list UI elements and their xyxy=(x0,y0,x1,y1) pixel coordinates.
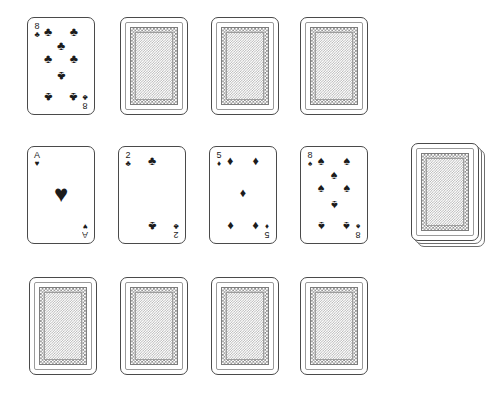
club-icon: ♣ xyxy=(68,54,79,65)
card-table: 8 ♣ 8 ♣ ♣ ♣ ♣ ♣ ♣ ♣ ♣ ♣ xyxy=(0,0,497,398)
diamond-icon: ♦ xyxy=(250,156,261,167)
card-5-of-diamonds[interactable]: 5 ♦ 5 ♦ ♦ ♦ ♦ ♦ ♦ xyxy=(209,146,277,244)
pip-layout: ♣ ♣ ♣ ♣ ♣ ♣ ♣ ♣ xyxy=(41,26,81,106)
card-2-of-clubs[interactable]: 2 ♣ 2 ♣ ♣ ♣ xyxy=(118,146,186,244)
club-icon: ♣ xyxy=(43,91,54,102)
card-back-pattern xyxy=(310,287,358,365)
card-back-border xyxy=(216,22,274,110)
card-back-border xyxy=(125,282,183,370)
pip-layout: ♣ ♣ xyxy=(132,155,172,235)
card-back-pattern xyxy=(130,287,178,365)
corner-index-top-left: A ♥ xyxy=(31,151,43,168)
stock-pile[interactable] xyxy=(411,143,485,247)
card-back-border xyxy=(216,282,274,370)
club-icon: ♣ xyxy=(147,156,158,167)
card-back[interactable] xyxy=(120,17,188,115)
card-back-pattern xyxy=(130,27,178,105)
club-icon: ♣ xyxy=(43,27,54,38)
club-icon: ♣ xyxy=(68,91,79,102)
card-ace-of-hearts[interactable]: A ♥ A ♥ ♥ xyxy=(27,146,95,244)
card-back-border xyxy=(125,22,183,110)
card-back-pattern xyxy=(421,153,469,231)
spade-icon: ♠ xyxy=(316,183,327,194)
card-back-border xyxy=(34,282,92,370)
spade-icon: ♠ xyxy=(341,183,352,194)
club-icon: ♣ xyxy=(43,54,54,65)
stock-pile-top-card[interactable] xyxy=(411,143,479,241)
diamond-icon: ♦ xyxy=(225,156,236,167)
card-back-pattern xyxy=(39,287,87,365)
spade-icon: ♠ xyxy=(329,199,340,210)
spade-icon: ♠ xyxy=(316,220,327,231)
card-back-border xyxy=(305,282,363,370)
diamond-icon: ♦ xyxy=(225,220,236,231)
diamond-icon: ♦ xyxy=(250,220,261,231)
spade-icon: ♠ xyxy=(341,156,352,167)
diamond-icon: ♦ xyxy=(238,188,249,199)
card-back[interactable] xyxy=(120,277,188,375)
card-back-border xyxy=(416,148,474,236)
card-back[interactable] xyxy=(211,277,279,375)
card-8-of-spades[interactable]: 8 ♠ 8 ♠ ♠ ♠ ♠ ♠ ♠ ♠ ♠ ♠ xyxy=(300,146,368,244)
spade-icon: ♠ xyxy=(316,156,327,167)
pip-layout: ♠ ♠ ♠ ♠ ♠ ♠ ♠ ♠ xyxy=(314,155,354,235)
card-8-of-clubs[interactable]: 8 ♣ 8 ♣ ♣ ♣ ♣ ♣ ♣ ♣ ♣ ♣ xyxy=(27,17,95,115)
card-back[interactable] xyxy=(29,277,97,375)
corner-index-bottom-right: A ♥ xyxy=(79,222,91,239)
card-back[interactable] xyxy=(211,17,279,115)
heart-icon: ♥ xyxy=(79,222,91,230)
club-icon: ♣ xyxy=(147,220,158,231)
heart-icon: ♥ xyxy=(49,182,73,206)
card-back-pattern xyxy=(221,27,269,105)
heart-icon: ♥ xyxy=(31,160,43,168)
card-back-pattern xyxy=(221,287,269,365)
club-icon: ♣ xyxy=(56,70,67,81)
spade-icon: ♠ xyxy=(329,170,340,181)
club-icon: ♣ xyxy=(56,41,67,52)
card-back-border xyxy=(305,22,363,110)
card-back[interactable] xyxy=(300,277,368,375)
club-icon: ♣ xyxy=(68,27,79,38)
card-back-pattern xyxy=(310,27,358,105)
card-back[interactable] xyxy=(300,17,368,115)
pip-layout: ♦ ♦ ♦ ♦ ♦ xyxy=(223,155,263,235)
spade-icon: ♠ xyxy=(341,220,352,231)
